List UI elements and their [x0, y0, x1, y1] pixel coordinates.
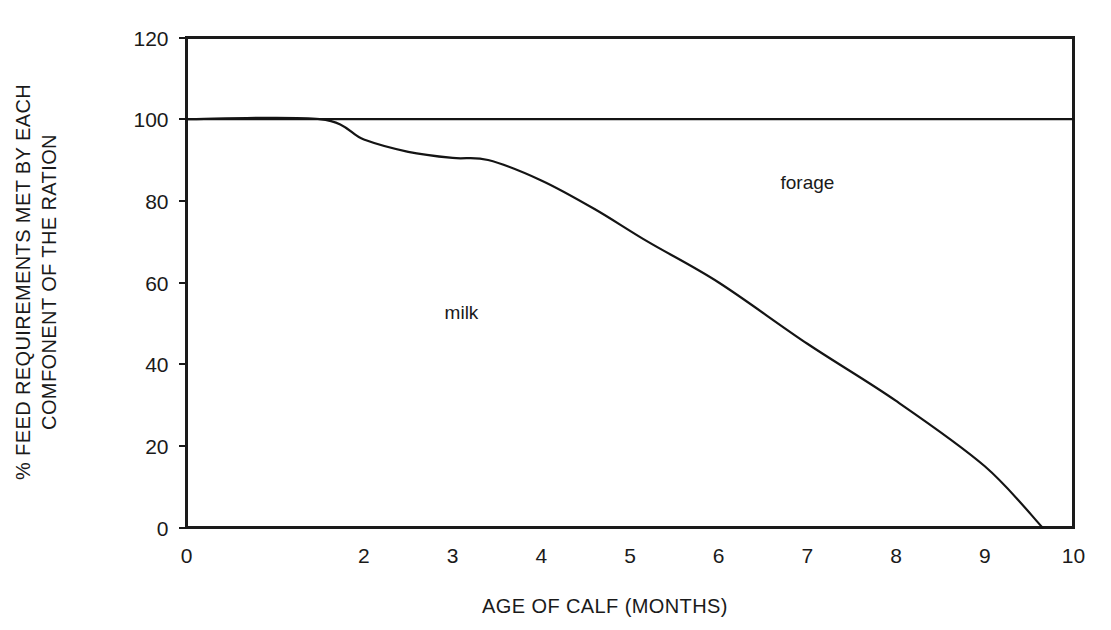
x-tick-label: 4: [535, 544, 547, 567]
series-annotation-forage: forage: [780, 172, 834, 193]
x-tick-label: 6: [713, 544, 725, 567]
x-tick-label: 2: [358, 544, 370, 567]
series-line-milk: [187, 118, 1043, 528]
series-annotation-milk: milk: [445, 302, 479, 323]
chart-figure: 020406080100120 02345678910 foragemilk A…: [0, 0, 1111, 630]
x-tick-label: 5: [624, 544, 636, 567]
y-tick-label: 80: [145, 190, 168, 213]
x-tick-label: 0: [181, 544, 193, 567]
series-annotations: foragemilk: [445, 172, 835, 324]
x-tick-label: 10: [1062, 544, 1085, 567]
y-tick-label: 20: [145, 435, 168, 458]
x-tick-label: 3: [447, 544, 459, 567]
x-axis-title: AGE OF CALF (MONTHS): [482, 595, 728, 617]
data-series-group: [187, 118, 1074, 528]
x-tick-label: 7: [802, 544, 814, 567]
y-axis-tick-labels: 020406080100120: [133, 27, 168, 540]
y-tick-label: 60: [145, 272, 168, 295]
chart-canvas: 020406080100120 02345678910 foragemilk A…: [0, 0, 1111, 630]
y-tick-label: 40: [145, 353, 168, 376]
x-tick-label: 9: [979, 544, 991, 567]
y-tick-label: 120: [133, 27, 168, 50]
y-tick-label: 0: [157, 517, 169, 540]
x-tick-label: 8: [890, 544, 902, 567]
y-axis-title-line-1: % FEED REQUIREMENTS MET BY EACH: [12, 84, 34, 480]
y-axis-title-line-2: COMFONENT OF THE RATION: [38, 134, 60, 430]
y-tick-label: 100: [133, 108, 168, 131]
x-axis-tick-labels: 02345678910: [181, 544, 1086, 567]
plot-frame: [187, 38, 1074, 528]
